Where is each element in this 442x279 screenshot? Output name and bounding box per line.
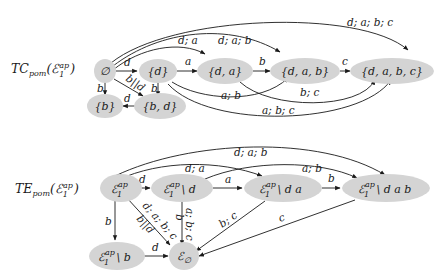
edge-label-d-dab: a; b [221,89,241,101]
edge-label-dab-dabc: c [342,55,348,67]
edge-label-Ed-Edab: a; b [302,162,322,174]
te-graph-title: TEpom(ℰap1) [15,181,79,199]
edge-label-empty-b: b [97,82,104,94]
node-label-b: {b} [94,100,115,113]
edge-Eda-Eempty [196,201,265,251]
edge-label-empty-dab: d; a; b [218,34,252,46]
edge-label-d-da: a [185,55,191,67]
edge-label-E-Eda: d; a [185,162,205,174]
edge-label-d-dabc: a; b; c [262,104,295,116]
edge-label-da-dabc: b; c [300,86,320,98]
node-label-bd: {b, d} [142,100,177,113]
tc-graph-title: TCpom(ℰap1) [11,61,75,79]
tc-graph: TCpom(ℰap1) d; a; b; c d; a; b d; a d a … [11,16,434,119]
edge-label-d-bd: b [151,82,158,94]
edge-label-bd-b: d [124,92,131,104]
node-label-empty: ∅ [100,65,110,78]
node-label-dabc: {d, a, b, c} [361,65,423,78]
te-graph: TEpom(ℰap1) d; a; b d; a a; b d a b b d;… [15,146,430,270]
edge-label-E-Edab: d; a; b [234,146,268,158]
edge-label-Eda-Edab: b [328,172,335,184]
edge-label-da-dab: b [259,55,266,67]
edge-label-Eda-Eempty: b; c [216,209,239,230]
edge-label-empty-d: d [124,56,131,68]
edge-label-E-Eb: b [105,215,112,227]
node-label-dab: {d, a, b} [281,65,330,78]
node-label-da: {d, a} [208,65,243,78]
node-label-d: {d} [147,65,168,78]
edge-label-Edab-Eempty: c [277,211,287,224]
edge-label-empty-da: d; a [178,34,198,46]
edge-label-empty-dabc: d; a; b; c [347,16,393,28]
edge-label-Eb-Eempty: d [152,241,159,253]
edge-label-Ed-Eempty-abc: a; b; c [184,208,196,241]
diagram-canvas: TCpom(ℰap1) d; a; b; c d; a; b d; a d a … [0,0,442,279]
edge-label-Ed-Eda: a [225,173,231,185]
